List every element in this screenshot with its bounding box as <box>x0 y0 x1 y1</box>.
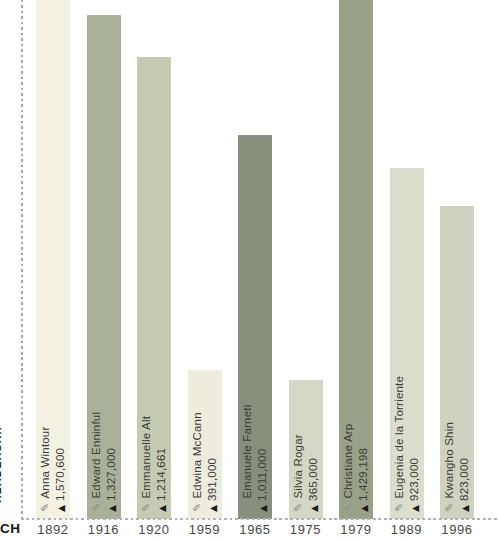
editor-name-text: Eugenia de la Torriente <box>393 376 405 499</box>
pencil-icon: ✎ <box>342 503 355 512</box>
readership-value-label: ▲923,000 <box>408 458 422 512</box>
year-label: 1979 <box>334 522 378 537</box>
triangle-icon: ▲ <box>359 505 369 512</box>
triangle-icon: ▲ <box>309 505 319 512</box>
readership-value-label: ▲823,000 <box>458 458 472 512</box>
pencil-icon: ✎ <box>292 503 305 512</box>
editor-name-label: ✎Eugenia de la Torriente <box>393 376 406 512</box>
triangle-icon: ▲ <box>107 505 117 512</box>
x-axis-dashed-line <box>21 518 499 520</box>
year-label: 1916 <box>82 522 126 537</box>
triangle-icon: ▲ <box>258 505 268 512</box>
year-label: 1989 <box>385 522 429 537</box>
readership-value-label: ▲1,011,000 <box>256 449 270 512</box>
pencil-icon: ✎ <box>241 503 254 512</box>
readership-value-label: ▲1,570,600 <box>54 448 68 512</box>
editor-name-label: ✎Emanuele Farneti <box>241 405 254 512</box>
editor-name-label: ✎Emmanuelle Alt <box>140 416 153 512</box>
readership-bar-chart: READERSHIP CH ✎Anna Wintour▲1,570,600189… <box>0 0 499 539</box>
editor-name-text: Silvia Rogar <box>292 434 304 498</box>
pencil-icon: ✎ <box>443 503 456 512</box>
editor-name-text: Edwina McCann <box>191 412 203 498</box>
year-label: 1920 <box>132 522 176 537</box>
year-label: 1975 <box>284 522 328 537</box>
pencil-icon: ✎ <box>191 503 204 512</box>
readership-value-label: ▲391,000 <box>206 458 220 512</box>
editor-name-label: ✎Christiane Arp <box>342 424 355 512</box>
pencil-icon: ✎ <box>140 503 153 512</box>
year-label: 1959 <box>183 522 227 537</box>
year-label: 1996 <box>435 522 479 537</box>
editor-name-label: ✎Kwangho Shin <box>443 422 456 512</box>
year-label: 1892 <box>31 522 75 537</box>
editor-name-text: Emmanuelle Alt <box>140 416 152 499</box>
editor-name-text: Edward Enninful <box>90 412 102 499</box>
readership-value-text: 1,011,000 <box>256 449 268 501</box>
readership-value-text: 923,000 <box>408 458 420 501</box>
readership-value-text: 1,429,198 <box>357 448 369 501</box>
editor-name-text: Emanuele Farneti <box>241 405 253 499</box>
editor-name-label: ✎Edwina McCann <box>191 412 204 512</box>
y-axis-label: READERSHIP <box>0 422 3 503</box>
x-axis-label-partial: CH <box>0 521 21 536</box>
triangle-icon: ▲ <box>460 505 470 512</box>
pencil-icon: ✎ <box>39 503 52 512</box>
editor-name-text: Christiane Arp <box>342 424 354 499</box>
year-label: 1965 <box>233 522 277 537</box>
readership-value-text: 1,214,661 <box>155 448 167 501</box>
readership-value-text: 1,570,600 <box>54 448 66 501</box>
triangle-icon: ▲ <box>410 505 420 512</box>
triangle-icon: ▲ <box>208 505 218 512</box>
editor-name-text: Kwangho Shin <box>443 422 455 499</box>
editor-name-label: ✎Silvia Rogar <box>292 434 305 512</box>
pencil-icon: ✎ <box>90 503 103 512</box>
editor-name-label: ✎Anna Wintour <box>39 427 52 513</box>
triangle-icon: ▲ <box>56 505 66 512</box>
readership-value-label: ▲1,429,198 <box>357 448 371 512</box>
readership-value-label: ▲365,000 <box>307 458 321 512</box>
readership-value-text: 365,000 <box>307 458 319 501</box>
editor-name-text: Anna Wintour <box>39 427 51 499</box>
pencil-icon: ✎ <box>393 503 406 512</box>
triangle-icon: ▲ <box>157 505 167 512</box>
readership-value-label: ▲1,214,661 <box>155 448 169 512</box>
editor-name-label: ✎Edward Enninful <box>90 412 103 512</box>
y-axis-dashed-line <box>21 0 23 519</box>
readership-value-text: 823,000 <box>458 458 470 501</box>
readership-value-text: 391,000 <box>206 458 218 501</box>
readership-value-label: ▲1,327,000 <box>105 448 119 512</box>
readership-value-text: 1,327,000 <box>105 448 117 501</box>
